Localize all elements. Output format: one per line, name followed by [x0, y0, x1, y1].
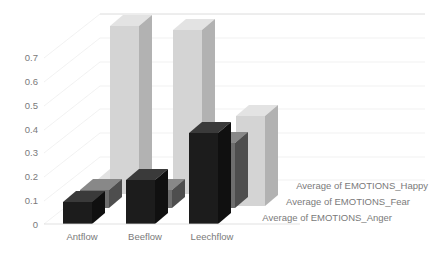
y-tick-label: 0.5: [25, 100, 38, 111]
y-tick-label: 0.1: [25, 195, 38, 206]
chart-legend: Average of EMOTIONS_Happy Average of EMO…: [262, 180, 428, 223]
column-anger-leechflow: [189, 122, 231, 224]
y-axis-labels: 0.7 0.6 0.5 0.4 0.3 0.2 0.1 0: [25, 52, 38, 230]
legend-item-anger[interactable]: Average of EMOTIONS_Anger: [262, 212, 392, 223]
x-axis-labels: Antflow Beeflow Leechflow: [66, 231, 233, 242]
category-label-leechflow: Leechflow: [191, 231, 234, 242]
y-tick-label: 0.2: [25, 171, 38, 182]
category-label-antflow: Antflow: [66, 231, 97, 242]
y-tick-label: 0.6: [25, 76, 38, 87]
legend-item-happy[interactable]: Average of EMOTIONS_Happy: [296, 180, 428, 191]
column-happy-beeflow: [110, 15, 152, 194]
category-label-beeflow: Beeflow: [128, 231, 162, 242]
3d-column-chart: 0.7 0.6 0.5 0.4 0.3 0.2 0.1 0: [0, 0, 431, 254]
y-tick-label: 0.4: [25, 124, 38, 135]
y-tick-label: 0.7: [25, 52, 38, 63]
column-anger-antflow: [63, 191, 105, 224]
legend-item-fear[interactable]: Average of EMOTIONS_Fear: [286, 196, 410, 207]
y-tick-label: 0.3: [25, 147, 38, 158]
y-tick-label: 0: [33, 219, 38, 230]
chart-container: 0.7 0.6 0.5 0.4 0.3 0.2 0.1 0: [0, 0, 431, 254]
column-anger-beeflow: [126, 169, 168, 224]
